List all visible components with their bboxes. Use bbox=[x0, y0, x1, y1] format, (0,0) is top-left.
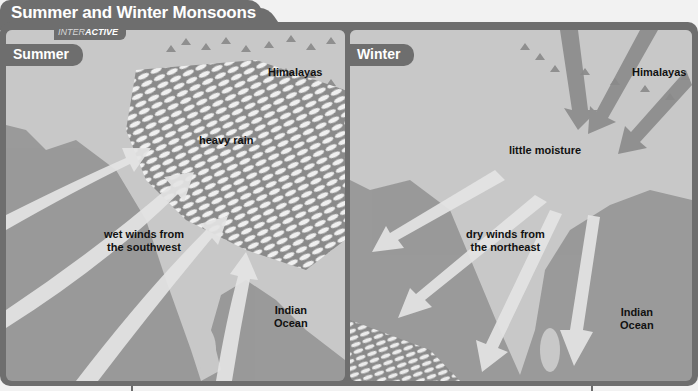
rain-area bbox=[350, 320, 460, 381]
interactive-badge[interactable]: INTERACTIVE bbox=[54, 27, 126, 40]
summer-tab[interactable]: Summer bbox=[6, 44, 83, 66]
himalayas-label: Himalayas bbox=[268, 66, 322, 79]
divider-tick bbox=[591, 384, 593, 391]
himalayas-label: Himalayas bbox=[632, 66, 686, 79]
indian-ocean-label: Indian Ocean bbox=[620, 306, 654, 332]
dry-winds-label: dry winds from the northeast bbox=[466, 228, 545, 254]
little-moisture-label: little moisture bbox=[509, 144, 581, 157]
indian-ocean-label: Indian Ocean bbox=[274, 304, 308, 330]
summer-panel: Summer Himalayas heavy rain wet winds fr… bbox=[6, 30, 345, 381]
winter-tab[interactable]: Winter bbox=[350, 44, 414, 66]
sri-lanka bbox=[196, 328, 216, 372]
sri-lanka bbox=[540, 328, 560, 372]
page-title: Summer and Winter Monsoons bbox=[11, 3, 256, 23]
wet-winds-label: wet winds from the southwest bbox=[104, 228, 184, 254]
winter-panel: Winter Himalayas little moisture dry win… bbox=[350, 30, 692, 381]
divider-tick bbox=[131, 384, 133, 391]
heavy-rain-label: heavy rain bbox=[199, 134, 253, 147]
